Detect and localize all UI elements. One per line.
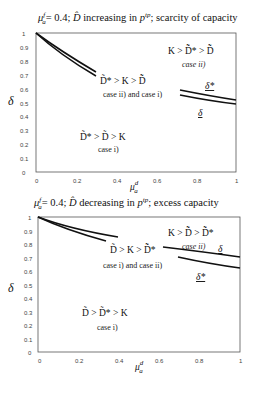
- svg-text:0.6: 0.6: [24, 269, 33, 275]
- bottom-curve-label-lower: δ*: [196, 272, 205, 282]
- svg-text:0.7: 0.7: [24, 256, 33, 262]
- svg-text:0.4: 0.4: [24, 296, 33, 302]
- svg-text:0.4: 0.4: [113, 178, 122, 184]
- svg-text:0.9: 0.9: [20, 45, 29, 51]
- svg-text:0.2: 0.2: [24, 323, 33, 329]
- top-region3-label: D̃* > D̃ > K: [80, 130, 126, 142]
- bottom-region3-label: D̃ > D̃* > K: [82, 306, 128, 318]
- svg-text:0: 0: [38, 358, 42, 364]
- svg-text:0.8: 0.8: [195, 358, 204, 364]
- top-x-label: μda: [129, 179, 139, 195]
- svg-text:0: 0: [22, 170, 26, 176]
- bottom-region1-label: K > D̃̃ > D̃̃*: [168, 226, 214, 238]
- svg-text:0: 0: [28, 350, 32, 356]
- svg-text:0.8: 0.8: [24, 242, 33, 248]
- top-y-axis: 1 0.9 0.8 0.7 0.6 0.5 0.4 0.3 0.2 0.1 0: [20, 31, 29, 176]
- bottom-region2-case: case i) and case ii): [103, 261, 162, 270]
- top-region1-label: K > D̃̃* > D̃̃: [168, 44, 214, 56]
- svg-text:0.6: 0.6: [20, 87, 29, 93]
- svg-text:0.6: 0.6: [153, 178, 162, 184]
- top-curve-label-upper: δ*: [205, 81, 214, 91]
- top-region3-case: case i): [98, 145, 119, 154]
- top-curve-delta-star-seg2: [180, 90, 236, 100]
- svg-text:0.1: 0.1: [20, 156, 29, 162]
- bottom-y-axis: 1 0.9 0.8 0.7 0.6 0.5 0.4 0.3 0.2 0.1 0: [24, 215, 33, 356]
- figure: μfa= 0.4; D̂ increasing in ptp; scarcity…: [0, 0, 257, 394]
- svg-text:0.3: 0.3: [20, 128, 29, 134]
- svg-text:0.5: 0.5: [24, 283, 33, 289]
- bottom-chart: μfa= 0.4; D̂ decreasing in ptp; excess c…: [8, 196, 243, 375]
- top-region2-label: D̃* > K > D̃̃: [100, 74, 146, 86]
- svg-text:0.4: 0.4: [20, 114, 29, 120]
- svg-text:0.3: 0.3: [24, 310, 33, 316]
- svg-text:1: 1: [235, 178, 239, 184]
- top-region2-case: case ii) and case i): [103, 90, 162, 99]
- svg-text:0.6: 0.6: [155, 358, 164, 364]
- svg-text:0.8: 0.8: [193, 178, 202, 184]
- bottom-curve-delta-seg1: [38, 217, 118, 237]
- svg-text:0.2: 0.2: [75, 358, 84, 364]
- top-curve-delta-seg2: [180, 95, 236, 104]
- svg-text:0.5: 0.5: [20, 101, 29, 107]
- svg-text:0.9: 0.9: [24, 229, 33, 235]
- svg-text:0.7: 0.7: [20, 73, 29, 79]
- bottom-curve-delta-star-seg2: [178, 257, 240, 268]
- top-region1-case: case ii): [182, 60, 206, 69]
- svg-text:0.1: 0.1: [24, 337, 33, 343]
- bottom-region3-case: case i): [97, 323, 118, 332]
- top-curve-delta-star-seg1: [36, 33, 96, 72]
- svg-text:0: 0: [35, 178, 39, 184]
- svg-text:1: 1: [22, 31, 26, 37]
- bottom-y-label: δ: [8, 281, 14, 295]
- bottom-title: μfa= 0.4; D̂ decreasing in ptp; excess c…: [33, 196, 219, 211]
- svg-text:0.2: 0.2: [20, 142, 29, 148]
- top-y-label: δ: [8, 94, 14, 108]
- svg-text:1: 1: [239, 358, 243, 364]
- top-title: μfa= 0.4; D̂ increasing in ptp; scarcity…: [37, 11, 238, 26]
- bottom-region1-case: case ii): [182, 242, 206, 251]
- svg-text:0.8: 0.8: [20, 59, 29, 65]
- svg-text:0.2: 0.2: [73, 178, 82, 184]
- bottom-region2-label: D̃ > K > D̃̃*: [110, 243, 156, 255]
- top-chart: μfa= 0.4; D̂ increasing in ptp; scarcity…: [8, 11, 239, 195]
- top-curve-label-lower: δ: [198, 108, 203, 118]
- svg-text:0.4: 0.4: [115, 358, 124, 364]
- bottom-x-label: μda: [134, 359, 144, 375]
- bottom-curve-label-upper: δ: [218, 244, 223, 254]
- svg-text:1: 1: [28, 215, 32, 221]
